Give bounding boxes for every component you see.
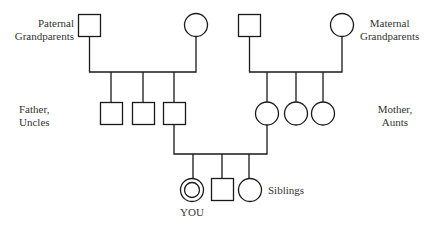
paternal-grandmother-circle xyxy=(185,14,208,37)
paternal-label-line2: Grandparents xyxy=(10,30,74,43)
maternal-grandfather-square xyxy=(239,15,261,37)
father-uncles-label: Father, Uncles xyxy=(19,103,50,129)
you-inner-circle xyxy=(185,183,200,198)
siblings-label: Siblings xyxy=(268,184,304,197)
maternal-marriage-line xyxy=(250,37,343,73)
mother-circle xyxy=(256,102,279,125)
mother-label-line2: Aunts xyxy=(375,116,415,129)
mother-aunts-label: Mother, Aunts xyxy=(375,103,415,129)
paternal-descent-lines xyxy=(111,72,174,102)
maternal-label-line1: Maternal xyxy=(360,17,419,30)
maternal-grandmother-circle xyxy=(331,14,354,37)
pedigree-diagram: Paternal Grandparents Maternal Grandpare… xyxy=(0,0,428,230)
aunt-1-circle xyxy=(285,102,308,125)
paternal-marriage-line xyxy=(90,37,197,73)
father-label-line1: Father, xyxy=(19,103,50,116)
paternal-grandfather-square xyxy=(79,15,101,37)
paternal-grandparents-label: Paternal Grandparents xyxy=(10,17,74,43)
mother-label-line1: Mother, xyxy=(375,103,415,116)
parents-marriage-line xyxy=(174,125,267,155)
aunt-2-circle xyxy=(312,102,335,125)
uncle-2-square xyxy=(133,103,155,125)
you-label: YOU xyxy=(172,206,212,219)
paternal-label-line1: Paternal xyxy=(10,17,74,30)
sister-circle xyxy=(239,179,262,202)
uncle-1-square xyxy=(101,103,123,125)
father-label-line2: Uncles xyxy=(19,116,50,129)
maternal-label-line2: Grandparents xyxy=(360,30,419,43)
maternal-descent-lines xyxy=(267,72,323,102)
brother-square xyxy=(212,179,234,201)
sibling-descent-lines xyxy=(193,154,249,179)
maternal-grandparents-label: Maternal Grandparents xyxy=(360,17,419,43)
father-square xyxy=(164,103,186,125)
